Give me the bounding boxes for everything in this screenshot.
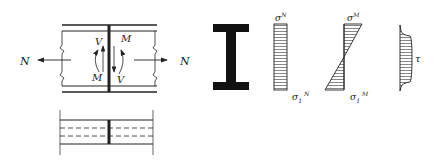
label-v-left: V — [95, 36, 104, 47]
beam-splice-diagram: N N V M M V σN σ1N σM σ1M τ — [0, 0, 436, 168]
i-section-icon — [213, 24, 249, 90]
label-n-left: N — [19, 55, 30, 68]
stress-m-diagram — [325, 24, 362, 90]
label-m-left: M — [91, 72, 103, 83]
moment-m-right-arrow — [119, 50, 123, 74]
beam-plan — [60, 110, 153, 155]
stress-tau-diagram — [400, 25, 412, 91]
stress-n-diagram — [274, 24, 287, 90]
label-v-right: V — [117, 74, 126, 85]
label-sigma-m-bottom: σ1M — [350, 90, 369, 104]
label-tau: τ — [415, 53, 421, 64]
label-sigma-n-top: σN — [275, 11, 287, 23]
label-sigma-n-bottom: σ1N — [292, 90, 310, 104]
label-n-right: N — [179, 55, 190, 68]
label-sigma-m-top: σM — [347, 11, 360, 23]
moment-m-left-arrow — [95, 50, 99, 72]
beam-elevation — [38, 25, 167, 92]
label-m-right: M — [120, 33, 132, 44]
